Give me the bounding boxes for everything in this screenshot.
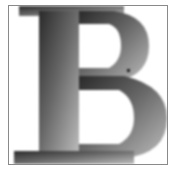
letter-b-glyph [9, 6, 167, 164]
image-frame [8, 5, 168, 165]
